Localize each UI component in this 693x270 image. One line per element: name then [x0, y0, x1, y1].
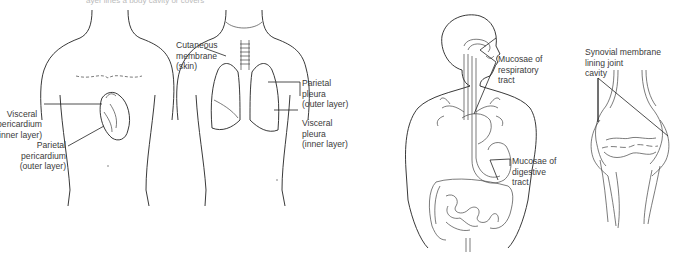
leader-lines: [44, 38, 668, 180]
label-visceral-pericardium: Visceral pericardium (inner layer): [0, 98, 42, 140]
label-respiratory-mucosae: Mucosae of respiratory tract: [498, 54, 542, 86]
mucosae-figure: [406, 15, 537, 252]
label-parietal-pericardium: Parietal pericardium (outer layer): [4, 140, 66, 172]
torso-heart-figure: [41, 10, 174, 206]
label-cutaneous-membrane: Cutaneous membrane (skin): [176, 40, 218, 72]
knee-joint-figure: [591, 70, 669, 228]
label-parietal-pleura: Parietal pleura (outer layer): [302, 78, 348, 110]
label-digestive-mucosae: Mucosae of digestive tract: [512, 156, 556, 188]
label-visceral-pleura: Visceral pleura (inner layer): [302, 118, 348, 150]
label-synovial-membrane: Synovial membrane lining joint cavity: [585, 47, 661, 79]
